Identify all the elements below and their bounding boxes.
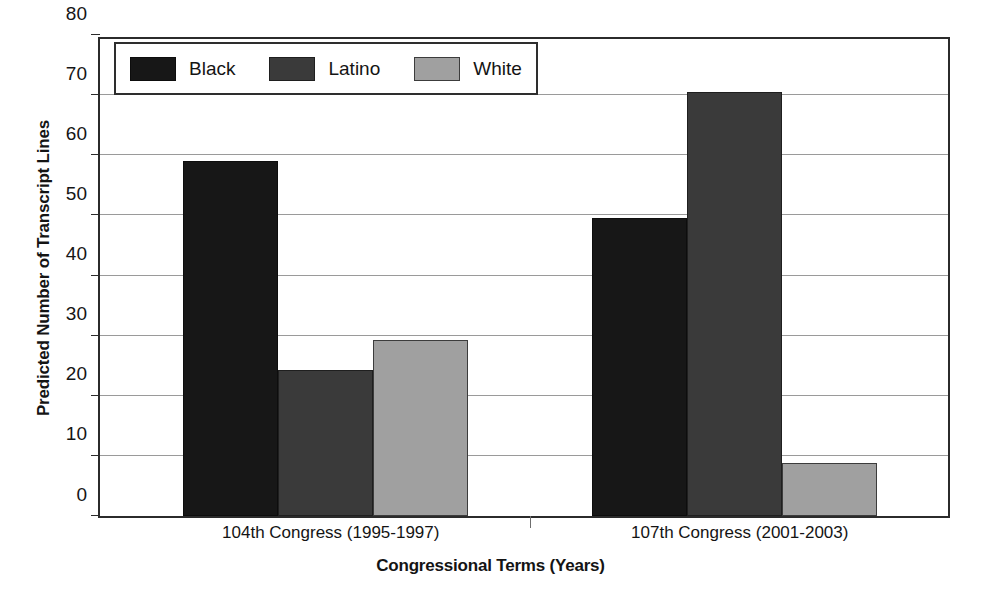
x-category-label: 104th Congress (1995-1997) (222, 523, 439, 543)
legend-swatch-icon (269, 57, 315, 81)
y-tick-label: 70 (66, 63, 87, 85)
legend-item-latino: Latino (269, 57, 380, 81)
y-tick-mark (91, 275, 100, 276)
legend: BlackLatinoWhite (114, 42, 538, 95)
y-axis-title: Predicted Number of Transcript Lines (34, 28, 54, 508)
bar-chart-figure: Predicted Number of Transcript Lines 010… (0, 0, 981, 590)
bar-black-0 (183, 161, 278, 516)
legend-swatch-icon (130, 57, 176, 81)
bar-latino-0 (278, 370, 373, 516)
y-tick-label: 30 (66, 303, 87, 325)
y-tick-label: 40 (66, 243, 87, 265)
y-tick-label: 0 (76, 484, 87, 506)
y-tick-label: 80 (66, 3, 87, 25)
bar-white-0 (373, 340, 468, 516)
legend-label: White (473, 58, 522, 80)
y-tick-label: 20 (66, 363, 87, 385)
y-tick-mark (91, 395, 100, 396)
bar-black-1 (592, 218, 687, 516)
bar-white-1 (782, 463, 877, 516)
category-separator (530, 516, 531, 528)
legend-swatch-icon (414, 57, 460, 81)
y-tick-mark (91, 515, 100, 516)
legend-label: Black (189, 58, 235, 80)
legend-label: Latino (328, 58, 380, 80)
y-tick-mark (91, 94, 100, 95)
y-tick-mark (91, 214, 100, 215)
plot-area: 01020304050607080 BlackLatinoWhite (98, 37, 950, 518)
legend-item-white: White (414, 57, 522, 81)
y-tick-label: 60 (66, 123, 87, 145)
y-tick-mark (91, 335, 100, 336)
gridline (100, 154, 948, 155)
y-tick-label: 50 (66, 183, 87, 205)
x-category-label: 107th Congress (2001-2003) (631, 523, 848, 543)
y-tick-label: 10 (66, 423, 87, 445)
x-axis-title: Congressional Terms (Years) (0, 556, 981, 576)
legend-item-black: Black (130, 57, 235, 81)
bar-latino-1 (687, 92, 782, 516)
y-tick-mark (91, 455, 100, 456)
y-tick-mark (91, 34, 100, 35)
y-tick-mark (91, 154, 100, 155)
